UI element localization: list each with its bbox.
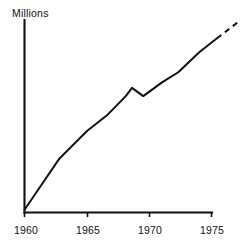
series-line-projected bbox=[217, 21, 240, 38]
line-chart: Millions 1960 1965 1970 1975 bbox=[0, 0, 243, 245]
y-axis-label: Millions bbox=[12, 7, 49, 19]
axes-group bbox=[25, 20, 213, 217]
x-tick-label-1970: 1970 bbox=[138, 224, 162, 236]
x-tick-label-1975: 1975 bbox=[200, 224, 224, 236]
chart-canvas: Millions 1960 1965 1970 1975 bbox=[0, 0, 243, 245]
x-tick-label-1960: 1960 bbox=[14, 224, 38, 236]
x-tick-label-1965: 1965 bbox=[76, 224, 100, 236]
series-line-observed bbox=[25, 38, 218, 209]
data-series-group bbox=[25, 21, 240, 210]
axis-labels-group: Millions 1960 1965 1970 1975 bbox=[12, 7, 224, 236]
